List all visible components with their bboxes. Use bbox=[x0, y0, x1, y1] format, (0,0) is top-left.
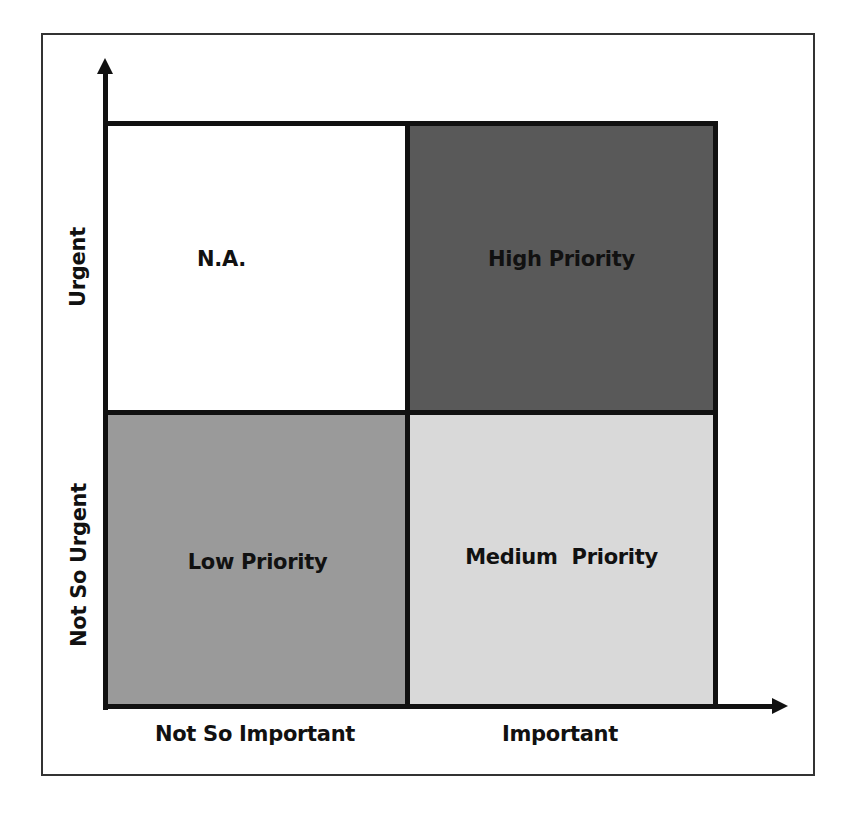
x-axis-label-important: Important bbox=[460, 722, 660, 746]
y-axis-line bbox=[103, 70, 108, 710]
quadrant-label-na: N.A. bbox=[197, 247, 246, 271]
quadrant-label-high-priority: High Priority bbox=[488, 247, 635, 271]
quadrant-na: N.A. bbox=[103, 121, 412, 417]
y-axis-label-not-so-urgent: Not So Urgent bbox=[67, 480, 91, 650]
x-axis-line bbox=[103, 704, 775, 709]
x-axis-label-not-so-important: Not So Important bbox=[130, 722, 380, 746]
y-axis-label-urgent: Urgent bbox=[66, 227, 90, 307]
y-axis-arrow-icon bbox=[97, 58, 113, 74]
quadrant-low-priority: Low Priority bbox=[103, 410, 412, 709]
quadrant-label-medium-priority: Medium Priority bbox=[465, 545, 658, 569]
quadrant-label-low-priority: Low Priority bbox=[188, 550, 328, 574]
x-axis-arrow-icon bbox=[772, 698, 788, 714]
quadrant-high-priority: High Priority bbox=[405, 121, 718, 417]
quadrant-medium-priority: Medium Priority bbox=[405, 410, 718, 709]
